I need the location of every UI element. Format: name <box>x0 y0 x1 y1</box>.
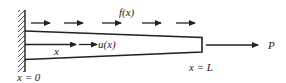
end-force-label: P <box>267 39 275 51</box>
left-end-label: x = 0 <box>16 71 41 83</box>
position-label: x <box>53 45 59 57</box>
tapered-bar-diagram: f(x) u(x) x x = 0 x = L P <box>0 0 286 83</box>
distributed-load-label: f(x) <box>119 6 135 19</box>
fixed-wall <box>18 10 25 72</box>
displacement-label: u(x) <box>98 38 116 51</box>
right-end-label: x = L <box>188 61 213 73</box>
